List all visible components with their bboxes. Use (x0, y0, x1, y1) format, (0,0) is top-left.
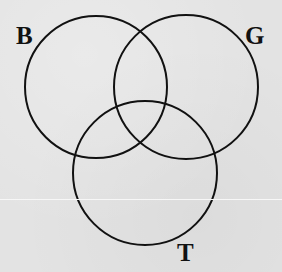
venn-diagram: B G T (0, 0, 282, 272)
circle-t (73, 101, 217, 245)
circle-g (114, 15, 258, 159)
circle-b (25, 16, 167, 158)
label-set-t: T (177, 240, 194, 265)
venn-circles (0, 0, 282, 272)
scan-artifact-line (0, 199, 282, 200)
label-set-g: G (245, 23, 264, 48)
label-set-b: B (16, 23, 33, 48)
